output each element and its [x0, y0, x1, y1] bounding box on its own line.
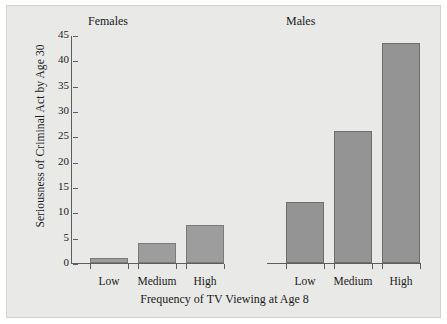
y-tick-label: 20 [39, 155, 69, 167]
x-tick-label-medium: Medium [138, 275, 177, 287]
x-tick-label-medium: Medium [334, 275, 373, 287]
x-tick-mark [138, 264, 139, 269]
y-tick-label: 0 [39, 256, 69, 268]
y-tick-label: 35 [39, 79, 69, 91]
x-tick-mark [420, 264, 421, 269]
y-tick-label: 40 [39, 53, 69, 65]
bar-males-medium[interactable] [334, 131, 372, 263]
x-axis-line-females [72, 263, 224, 264]
bar-males-low[interactable] [286, 202, 324, 263]
x-tick-label-high: High [194, 275, 217, 287]
x-tick-mark [382, 264, 383, 269]
x-tick-mark [224, 264, 225, 269]
panel-males: Males Low Medium High [267, 36, 421, 264]
panel-title-males: Males [286, 14, 315, 29]
chart-figure: Seriousness of Criminal Act by Age 30 0 … [6, 5, 441, 318]
x-tick-label-low: Low [98, 275, 119, 287]
bar-males-high[interactable] [382, 43, 420, 263]
x-tick-mark [324, 264, 325, 269]
x-tick-mark [90, 264, 91, 269]
x-axis-title: Frequency of TV Viewing at Age 8 [7, 292, 442, 307]
x-tick-mark [176, 264, 177, 269]
y-tick-mark [73, 264, 78, 265]
x-tick-mark [128, 264, 129, 269]
x-tick-mark [372, 264, 373, 269]
plot-area: 0 5 10 15 20 25 30 35 [71, 36, 421, 271]
x-tick-mark [186, 264, 187, 269]
x-tick-mark [334, 264, 335, 269]
panel-females: Females Low Medium High [72, 36, 224, 264]
bar-females-high[interactable] [186, 225, 224, 263]
y-tick-label: 5 [39, 231, 69, 243]
x-tick-label-high: High [390, 275, 413, 287]
bar-females-medium[interactable] [138, 243, 176, 263]
bars-females [72, 36, 224, 263]
y-tick-label: 10 [39, 205, 69, 217]
x-tick-mark [286, 264, 287, 269]
bars-males [267, 36, 421, 263]
x-tick-label-low: Low [294, 275, 315, 287]
y-tick-label: 25 [39, 129, 69, 141]
panel-title-females: Females [88, 14, 128, 29]
y-tick-label: 15 [39, 180, 69, 192]
y-tick-label: 45 [39, 28, 69, 40]
x-axis-line-males [267, 263, 421, 264]
y-tick-label: 30 [39, 104, 69, 116]
